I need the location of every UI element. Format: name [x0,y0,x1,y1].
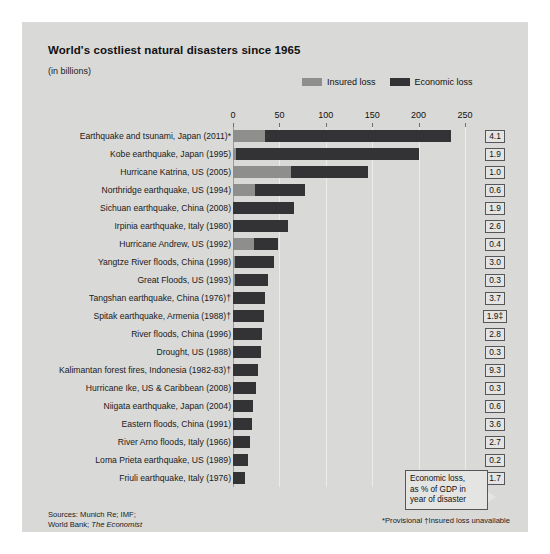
gdp-value-box: 1.0 [485,166,505,179]
bar-segment-economic [233,454,248,466]
category-label: Great Floods, US (1993) [48,271,231,289]
gdp-value-box: 1.7 [485,472,505,485]
category-label-column: Earthquake and tsunami, Japan (2011)*Kob… [48,127,231,487]
category-label: Hurricane Andrew, US (1992) [48,235,231,253]
bar-row [233,289,465,307]
category-label: Loma Prieta earthquake, US (1989) [48,451,231,469]
bar-segment-economic [291,166,369,178]
chart-legend: Insured loss Economic loss [302,77,473,87]
bar-segment-economic [233,220,288,232]
gdp-value-box: 0.6 [485,400,505,413]
page-title: World's costliest natural disasters sinc… [48,44,301,56]
bar-segment-economic [233,328,262,340]
category-label: Kalimantan forest fires, Indonesia (1982… [48,361,231,379]
stacked-bar [233,436,250,448]
gdp-value-box: 0.3 [485,382,505,395]
x-tick-label-250: 250 [457,110,472,120]
gdp-callout-line2: as % of GDP in [410,485,483,496]
gdp-value-box: 2.7 [485,436,505,449]
chart-panel: World's costliest natural disasters sinc… [22,22,528,532]
gdp-value-box: 1.9 [485,148,505,161]
bar-segment-economic [233,364,258,376]
bar-segment-economic [233,310,264,322]
bar-segment-economic [233,382,256,394]
stacked-bar [233,382,256,394]
bar-segment-economic [233,346,261,358]
gdp-row: 1.0 [480,163,510,181]
bar-segment-economic [233,400,253,412]
stacked-bar [233,310,264,322]
category-label: River Arno floods, Italy (1966) [48,433,231,451]
bar-segment-economic [236,148,419,160]
bar-row [233,379,465,397]
gdp-value-box: 3.0 [485,256,505,269]
gdp-row: 0.3 [480,271,510,289]
footnote-note: *Provisional †Insured loss unavailable [382,516,510,525]
gdp-value-box: 1.9 [485,202,505,215]
gdp-percentage-column: 4.11.91.00.61.92.60.43.00.33.71.9‡2.80.3… [480,127,510,487]
gdp-value-box: 4.1 [485,130,505,143]
x-axis-tick-labels: 050100150200250 [233,110,465,124]
category-label: Hurricane Ike, US & Caribbean (2008) [48,379,231,397]
bar-segment-economic [235,274,268,286]
gdp-row: 0.6 [480,397,510,415]
bar-segment-insured [233,184,255,196]
gdp-value-box: 9.3 [485,364,505,377]
category-label: Sichuan earthquake, China (2008) [48,199,231,217]
gdp-row: 1.9 [480,199,510,217]
gdp-callout-line3: year of disaster [410,495,483,506]
stacked-bar [233,274,268,286]
category-label: Hurricane Katrina, US (2005) [48,163,231,181]
bar-segment-insured [233,166,291,178]
bar-row [233,397,465,415]
category-label: Irpinia earthquake, Italy (1980) [48,217,231,235]
stacked-bar [233,130,451,142]
bar-row [233,307,465,325]
bar-segment-economic [255,184,305,196]
bar-row [233,253,465,271]
stacked-bar [233,202,294,214]
bar-row [233,325,465,343]
bar-segment-insured [233,130,265,142]
stacked-bar [233,328,262,340]
stacked-bar [233,454,248,466]
gdp-value-box: 0.2 [485,454,505,467]
bar-row [233,271,465,289]
category-label: Niigata earthquake, Japan (2004) [48,397,231,415]
bar-row [233,433,465,451]
gdp-row: 3.7 [480,289,510,307]
gdp-callout-pointer-icon [488,492,496,502]
legend-swatch-economic [390,78,410,86]
bar-row [233,163,465,181]
category-label: Northridge earthquake, US (1994) [48,181,231,199]
gdp-callout-line1: Economic loss, [410,474,483,485]
gdp-value-box: 0.4 [485,238,505,251]
sources-line-2-italic: The Economist [91,520,142,529]
gdp-value-box: 3.7 [485,292,505,305]
gdp-value-box: 1.9‡ [483,310,507,323]
gdp-row: 9.3 [480,361,510,379]
sources-line-2: World Bank; The Economist [48,520,142,530]
gdp-row: 4.1 [480,127,510,145]
sources-line-1: Sources: Munich Re; IMF; [48,510,142,520]
gdp-row: 0.4 [480,235,510,253]
x-tick-label-50: 50 [274,110,284,120]
category-label: Drought, US (1988) [48,343,231,361]
bar-row [233,235,465,253]
bar-row [233,361,465,379]
stacked-bar [233,256,274,268]
bar-row [233,415,465,433]
bar-row [233,181,465,199]
x-tick-label-200: 200 [411,110,426,120]
stacked-bar [233,472,245,484]
bar-segment-economic [254,238,277,250]
stacked-bar [233,400,253,412]
gdp-row: 3.0 [480,253,510,271]
sources-line-2-prefix: World Bank; [48,520,91,529]
gdp-row: 2.7 [480,433,510,451]
gdp-row: 0.3 [480,379,510,397]
bar-row [233,145,465,163]
bar-rows [233,127,465,487]
x-tick-label-150: 150 [365,110,380,120]
sources-note: Sources: Munich Re; IMF; World Bank; The… [48,510,142,529]
